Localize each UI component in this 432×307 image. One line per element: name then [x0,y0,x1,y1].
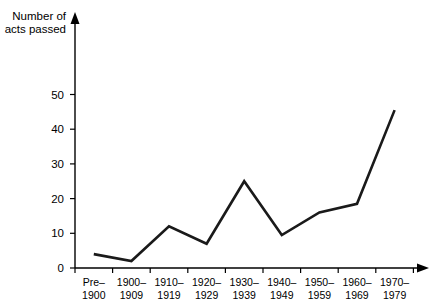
x-tick-label-line-1: 1910– [154,276,183,288]
y-axis-title-line-2: acts passed [5,23,66,35]
y-tick-label: 30 [51,158,64,170]
y-tick-label: 10 [51,227,64,239]
y-tick-label: 50 [51,89,64,101]
x-tick-label-line-1: 1950– [305,276,334,288]
x-tick-label-line-2: 1949 [270,289,294,301]
y-axis-arrow-icon [71,12,80,24]
x-tick-label-line-1: Pre– [83,276,105,288]
x-axis-ticks [75,268,413,273]
x-tick-label-line-1: 1960– [342,276,371,288]
x-tick-label-line-1: 1920– [192,276,221,288]
line-chart: 01020304050 Pre–19001900–19091910–191919… [0,0,432,307]
data-series-line [94,110,395,261]
x-tick-label-line-2: 1909 [120,289,144,301]
x-tick-label-line-2: 1969 [345,289,369,301]
x-tick-label-line-2: 1900 [82,289,106,301]
x-tick-label-line-1: 1940– [267,276,296,288]
x-tick-label-line-2: 1919 [157,289,181,301]
x-tick-label-line-1: 1970– [380,276,409,288]
y-tick-label: 0 [58,262,64,274]
y-tick-label: 40 [51,123,64,135]
x-tick-label-line-2: 1979 [383,289,407,301]
x-axis-arrow-icon [417,264,429,273]
x-tick-label-line-2: 1959 [308,289,332,301]
y-axis-ticks [70,95,75,269]
x-axis-tick-labels: Pre–19001900–19091910–19191920–19291930–… [82,276,409,301]
y-axis-tick-labels: 01020304050 [51,89,64,275]
chart-canvas: 01020304050 Pre–19001900–19091910–191919… [0,0,432,307]
y-axis-title: Number of acts passed [5,10,67,35]
x-tick-label-line-2: 1929 [195,289,219,301]
y-tick-label: 20 [51,193,64,205]
x-tick-label-line-1: 1900– [117,276,146,288]
x-tick-label-line-2: 1939 [233,289,257,301]
y-axis-title-line-1: Number of [12,10,66,22]
x-tick-label-line-1: 1930– [230,276,259,288]
y-axis [71,12,80,268]
